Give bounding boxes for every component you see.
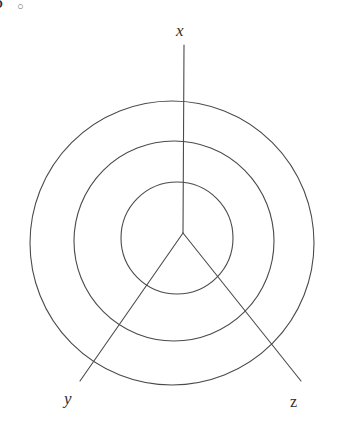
x-axis-label: x — [176, 22, 184, 39]
figure-drawing-canvas — [0, 0, 341, 438]
concentric-circles-group — [30, 101, 314, 385]
y-axis-label: y — [64, 390, 72, 407]
outer-circle — [30, 101, 314, 385]
z-axis-line — [183, 233, 301, 381]
axes-group — [80, 45, 301, 381]
middle-circle — [74, 141, 274, 341]
inner-circle — [121, 182, 233, 294]
y-axis-line — [80, 233, 183, 381]
figure-container: 5 ○ x y z — [0, 0, 341, 438]
z-axis-label: z — [290, 394, 297, 410]
x-axis-line — [183, 45, 184, 233]
